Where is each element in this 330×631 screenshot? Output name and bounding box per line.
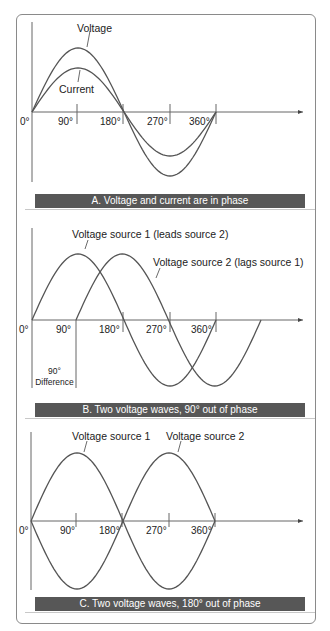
divider-b [25, 418, 315, 419]
tick-90: 90° [56, 324, 71, 336]
current-leader-arrow [78, 70, 80, 82]
voltage-source-2-label-c: Voltage source 2 [166, 430, 244, 442]
tick-180: 180° [100, 116, 121, 128]
tick-360: 360° [191, 324, 212, 336]
caption-c: C. Two voltage waves, 180° out of phase [35, 597, 305, 611]
current-label: Current [59, 83, 94, 95]
tick-90: 90° [58, 116, 73, 128]
tick-0: 0° [19, 324, 29, 336]
divider-c [25, 612, 315, 613]
voltage-source-1-label-b: Voltage source 1 (leads source 2) [72, 228, 228, 240]
source-2-leader-arrow [156, 268, 160, 278]
c-source-2-leader-arrow [178, 441, 181, 452]
voltage-source-1-label-c: Voltage source 1 [72, 430, 150, 442]
caption-b: B. Two voltage waves, 90° out of phase [35, 403, 305, 417]
tick-0: 0° [19, 525, 29, 537]
voltage-source-2-label-b: Voltage source 2 (lags source 1) [153, 256, 304, 268]
divider-a [25, 209, 315, 210]
tick-180: 180° [99, 324, 120, 336]
source-1-leader-arrow [85, 240, 88, 249]
tick-360: 360° [191, 525, 212, 537]
tick-360: 360° [189, 116, 210, 128]
tick-270: 270° [146, 324, 167, 336]
panel-b-graph [32, 228, 303, 388]
difference-label: Difference [33, 377, 76, 387]
panel-a-graph [32, 22, 303, 182]
tick-270: 270° [147, 116, 168, 128]
tick-180: 180° [99, 525, 120, 537]
caption-a: A. Voltage and current are in phase [35, 194, 305, 208]
difference-degree-label: 90° [33, 366, 76, 376]
tick-90: 90° [60, 525, 75, 537]
c-source-1-leader-arrow [84, 441, 87, 452]
tick-270: 270° [146, 525, 167, 537]
panel-c-graph [31, 432, 303, 590]
voltage-label: Voltage [77, 22, 112, 34]
tick-0: 0° [20, 116, 30, 128]
